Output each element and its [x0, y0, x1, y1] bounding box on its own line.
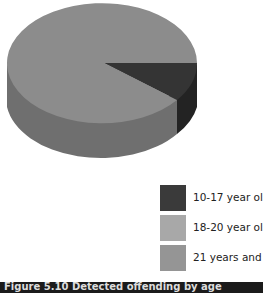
caption-text: Figure 5.10 Detected offending by age	[4, 282, 222, 292]
legend-swatch	[160, 245, 186, 271]
legend-item: 10-17 year olds	[160, 185, 263, 211]
pie-chart	[0, 0, 263, 180]
legend-label: 18-20 year olds	[193, 221, 263, 233]
legend-swatch	[160, 215, 186, 241]
legend-swatch	[160, 185, 186, 211]
legend-item: 18-20 year olds	[160, 215, 263, 241]
legend-item: 21 years and over	[160, 245, 263, 271]
legend-label: 10-17 year olds	[193, 191, 263, 203]
figure-caption: Figure 5.10 Detected offending by age	[0, 282, 263, 293]
legend-label: 21 years and over	[193, 251, 263, 263]
